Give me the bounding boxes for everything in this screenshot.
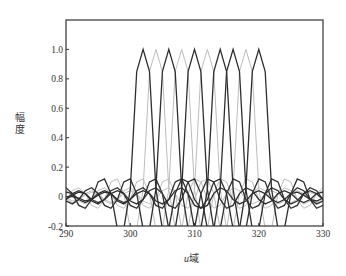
y-tick-label: 0.2 — [51, 163, 63, 173]
x-tick-label: 320 — [252, 229, 267, 239]
series-lines — [60, 49, 330, 229]
y-tick-label: 0 — [58, 192, 63, 202]
x-axis-ticks: 290300310320330 — [59, 223, 331, 239]
x-tick-label: 290 — [59, 229, 74, 239]
y-axis-label-text: 幅度 — [13, 112, 27, 136]
x-axis-suffix: 域 — [189, 253, 199, 264]
y-axis-label: 幅度 — [13, 112, 27, 136]
x-tick-label: 300 — [123, 229, 138, 239]
y-tick-label: 0.8 — [51, 74, 63, 84]
y-tick-label: 0.4 — [51, 133, 63, 143]
y-tick-label: 1.0 — [51, 45, 63, 55]
x-axis-label: u域 — [184, 250, 199, 265]
chart-canvas: -0.200.20.40.60.81.0 290300310320330 — [0, 0, 346, 276]
y-tick-label: 0.6 — [51, 104, 63, 114]
x-tick-label: 310 — [187, 229, 202, 239]
x-tick-label: 330 — [316, 229, 331, 239]
